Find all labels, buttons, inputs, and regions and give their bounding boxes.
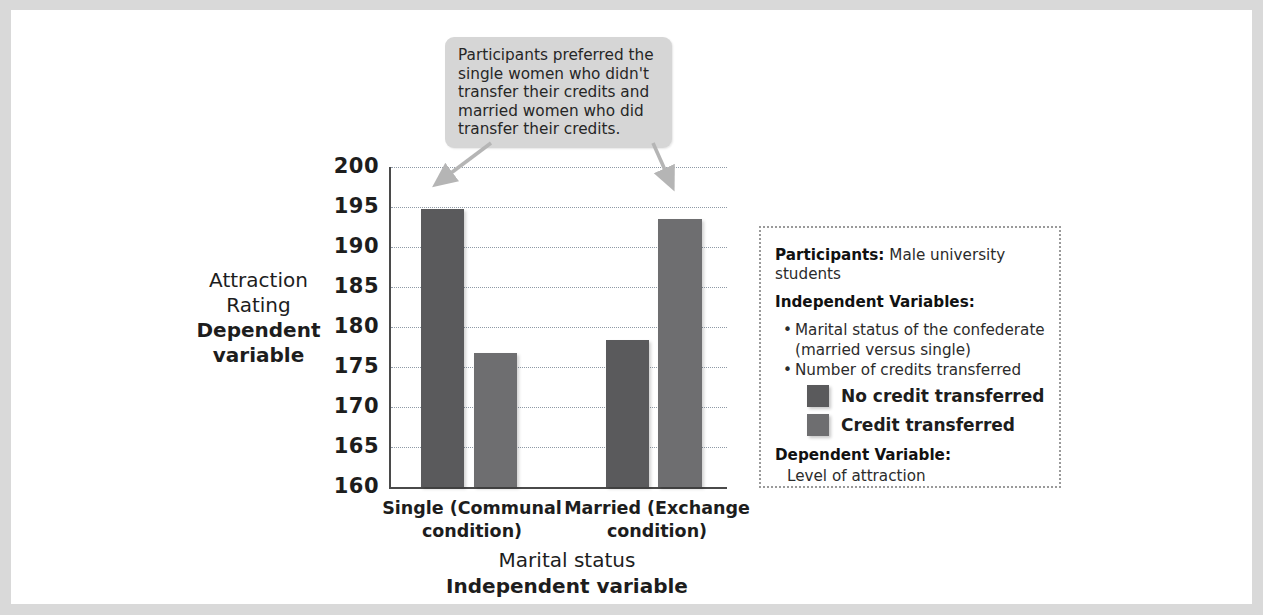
bullet-line: Marital status of the confederate bbox=[795, 321, 1045, 339]
bar-married-no-credit bbox=[606, 340, 649, 487]
y-axis-line bbox=[389, 167, 391, 489]
x-category-label-single: Single (Communal condition) bbox=[377, 497, 567, 543]
x-category-line: Married (Exchange bbox=[562, 497, 752, 520]
list-item: Number of credits transferred bbox=[795, 361, 1045, 381]
legend-item-no-credit: No credit transferred bbox=[807, 385, 1045, 407]
annotation-callout: Participants preferred the single women … bbox=[445, 37, 672, 148]
gridline bbox=[391, 207, 727, 208]
y-axis-title: Attraction Rating Dependent variable bbox=[181, 268, 336, 368]
y-tick-label: 190 bbox=[309, 234, 379, 258]
legend-label: No credit transferred bbox=[841, 386, 1044, 406]
x-category-line: Single (Communal bbox=[377, 497, 567, 520]
y-tick-label: 160 bbox=[309, 474, 379, 498]
dependent-variable-value: Level of attraction bbox=[787, 467, 1045, 485]
y-tick-label: 170 bbox=[309, 394, 379, 418]
info-panel: Participants: Male university students I… bbox=[759, 226, 1061, 488]
plot-area bbox=[389, 167, 727, 489]
y-tick-label: 200 bbox=[309, 154, 379, 178]
y-axis-title-main: Attraction Rating bbox=[181, 268, 336, 318]
independent-variables-list: Marital status of the confederate (marri… bbox=[775, 321, 1045, 381]
x-axis-title-sub: Independent variable bbox=[422, 573, 712, 599]
independent-variables-label: Independent Variables: bbox=[775, 293, 1045, 312]
y-tick-label: 165 bbox=[309, 434, 379, 458]
bullet-line: (married versus single) bbox=[795, 341, 971, 359]
x-axis-line bbox=[389, 487, 727, 489]
screenshot-root: 200 195 190 185 180 175 170 165 160 Attr… bbox=[0, 0, 1263, 615]
legend-swatch-icon bbox=[807, 385, 829, 407]
list-item: Marital status of the confederate (marri… bbox=[795, 321, 1045, 360]
x-category-line: condition) bbox=[377, 520, 567, 543]
bullet-line: Number of credits transferred bbox=[795, 361, 1021, 379]
participants-label: Participants: bbox=[775, 246, 884, 264]
participants-line: Participants: Male university students bbox=[775, 246, 1045, 284]
x-axis-title: Marital status Independent variable bbox=[422, 547, 712, 599]
bar-single-credit bbox=[474, 353, 517, 487]
y-tick-label: 195 bbox=[309, 194, 379, 218]
x-axis-title-main: Marital status bbox=[422, 547, 712, 573]
dependent-variable-label: Dependent Variable: bbox=[775, 446, 1045, 464]
bar-single-no-credit bbox=[421, 209, 464, 487]
legend-label: Credit transferred bbox=[841, 415, 1015, 435]
x-category-label-married: Married (Exchange condition) bbox=[562, 497, 752, 543]
figure-canvas: 200 195 190 185 180 175 170 165 160 Attr… bbox=[11, 10, 1252, 604]
x-category-line: condition) bbox=[562, 520, 752, 543]
y-axis-title-sub: Dependent variable bbox=[181, 318, 336, 368]
legend-item-credit: Credit transferred bbox=[807, 414, 1045, 436]
bar-married-credit bbox=[658, 219, 702, 487]
gridline bbox=[391, 167, 727, 168]
legend-swatch-icon bbox=[807, 414, 829, 436]
